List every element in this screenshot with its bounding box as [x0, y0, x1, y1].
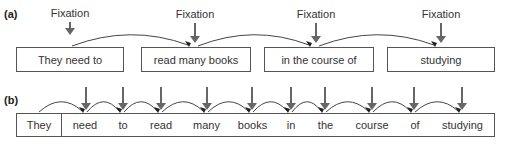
saccade-arrowhead-icon	[407, 107, 413, 113]
fixation-arrowhead-icon	[311, 36, 321, 43]
saccade-arrowhead-icon	[200, 107, 206, 113]
saccade-arrowhead-icon	[318, 107, 324, 113]
saccade-curve	[72, 35, 188, 46]
saccade-arrowhead-icon	[284, 107, 290, 113]
fixation-arrowhead-icon	[436, 36, 446, 43]
saccade-curve	[326, 102, 368, 112]
saccade-curve	[39, 102, 82, 112]
saccade-curve	[124, 102, 157, 112]
fixation-arrowhead-icon	[65, 28, 75, 35]
saccade-curve	[319, 35, 434, 46]
saccade-arrowhead-icon	[455, 107, 461, 113]
arrows-layer	[0, 0, 509, 144]
saccade-curve	[292, 102, 321, 112]
saccade-curve	[198, 35, 309, 46]
saccade-curve	[415, 102, 458, 112]
saccade-curve	[208, 102, 248, 112]
saccade-curve	[373, 102, 410, 112]
saccade-curve	[87, 102, 119, 112]
fixation-arrowhead-icon	[190, 36, 200, 43]
saccade-arrowhead-icon	[154, 107, 160, 113]
saccade-curve	[162, 102, 203, 112]
saccade-arrowhead-icon	[245, 107, 251, 113]
saccade-curve	[253, 102, 287, 112]
saccade-arrowhead-icon	[365, 107, 371, 113]
saccade-arrowhead-icon	[116, 107, 122, 113]
saccade-arrowhead-icon	[79, 107, 85, 113]
